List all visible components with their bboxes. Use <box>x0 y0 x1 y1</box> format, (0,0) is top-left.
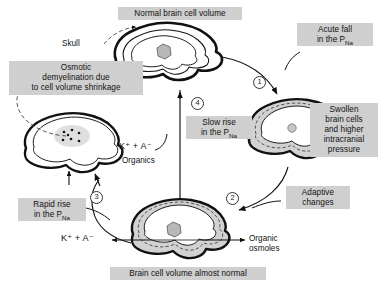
arrow-step1 <box>222 57 277 94</box>
label-adaptive-changes: Adaptive changes <box>286 186 350 209</box>
step-number-4: 4 <box>191 97 204 110</box>
step-number-1: 1 <box>253 76 266 89</box>
label-skull: Skull <box>62 39 80 49</box>
slow-rise-sub: Na <box>229 131 237 138</box>
label-organic-osmoles: Organic osmoles <box>249 234 305 254</box>
cell-adapted <box>132 199 230 258</box>
acute-fall-sub: Na <box>345 38 353 45</box>
label-acute-fall-pna: Acute fall in the PNa <box>297 23 373 46</box>
label-k-a-efflux: K⁺ + A⁻ <box>61 233 94 243</box>
label-brain-cell-volume-almost-normal: Brain cell volume almost normal <box>110 267 266 280</box>
label-osmotic-demyelination: Osmotic demyelination due to cell volume… <box>9 61 143 95</box>
step-number-3: 3 <box>90 191 103 204</box>
step-number-2: 2 <box>226 192 239 205</box>
rapid-rise-sub: Na <box>62 213 70 220</box>
label-organics: Organics <box>122 156 155 166</box>
label-normal-brain-cell-volume: Normal brain cell volume <box>118 7 242 20</box>
label-k-a-organics: K⁺ + A⁻ <box>119 141 152 151</box>
label-swollen-brain-cells: Swollen brain cells and higher intracran… <box>310 103 378 157</box>
label-rapid-rise-pna: Rapid rise in the PNa <box>18 198 86 221</box>
label-slow-rise-pna: Slow rise in the PNa <box>186 116 252 139</box>
figure-canvas: Normal brain cell volume Skull Acute fal… <box>0 0 380 287</box>
